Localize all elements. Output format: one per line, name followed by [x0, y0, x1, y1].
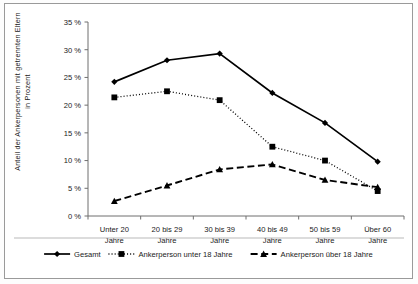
- series-3: [111, 161, 381, 204]
- data-point-marker: [164, 57, 170, 63]
- data-point-marker: [217, 97, 223, 103]
- chart-canvas: 0 %5 %10 %15 %20 %25 %30 %35 %Unter 20Ja…: [0, 0, 418, 284]
- legend-item-1: Gesamt: [44, 250, 101, 259]
- legend-label: Ankerperson unter 18 Jahre: [138, 250, 232, 259]
- series-1: [111, 50, 381, 164]
- legend-item-2: Ankerperson unter 18 Jahre: [108, 250, 232, 259]
- y-axis-tick-label: 30 %: [64, 46, 82, 55]
- x-axis-tick-label: Über 60: [364, 225, 391, 234]
- data-point-marker: [111, 79, 117, 85]
- x-axis-tick-label: Jahre: [316, 236, 335, 245]
- x-axis-tick-label: Unter 20: [100, 225, 129, 234]
- y-axis-tick-label: 15 %: [64, 129, 82, 138]
- x-axis-tick-label: Jahre: [105, 236, 124, 245]
- y-axis-tick-label: 5 %: [68, 184, 81, 193]
- data-point-marker: [164, 88, 170, 94]
- x-axis-tick-label: 50 bis 59: [310, 225, 341, 234]
- data-point-marker: [119, 251, 125, 257]
- data-point-marker: [111, 94, 117, 100]
- data-point-marker: [322, 158, 328, 164]
- series-line: [114, 164, 377, 201]
- y-axis-tick-label: 25 %: [64, 73, 82, 82]
- series-line: [114, 54, 377, 162]
- series-2: [111, 88, 380, 194]
- series-line: [114, 91, 377, 191]
- y-axis-tick-label: 20 %: [64, 101, 82, 110]
- x-axis-tick-label: 40 bis 49: [257, 225, 288, 234]
- data-point-marker: [269, 144, 275, 150]
- y-axis-tick-label: 10 %: [64, 156, 82, 165]
- legend-label: Ankerperson über 18 Jahre: [281, 250, 373, 259]
- legend-label: Gesamt: [74, 250, 101, 259]
- x-axis-tick-label: Jahre: [210, 236, 229, 245]
- x-axis-tick-label: Jahre: [158, 236, 177, 245]
- y-axis-tick-label: 35 %: [64, 18, 82, 27]
- x-axis-tick-label: 20 bis 29: [152, 225, 183, 234]
- plot-container: Anteil der Ankerpersonen mit getrennten …: [0, 0, 418, 284]
- legend-item-3: Ankerperson über 18 Jahre: [251, 250, 373, 259]
- y-axis-tick-label: 0 %: [68, 212, 81, 221]
- x-axis-tick-label: Jahre: [263, 236, 282, 245]
- chart-figure: Anteil der Ankerpersonen mit getrennten …: [0, 0, 418, 284]
- data-point-marker: [54, 251, 60, 257]
- x-axis-tick-label: Jahre: [368, 236, 387, 245]
- x-axis-tick-label: 30 bis 39: [204, 225, 235, 234]
